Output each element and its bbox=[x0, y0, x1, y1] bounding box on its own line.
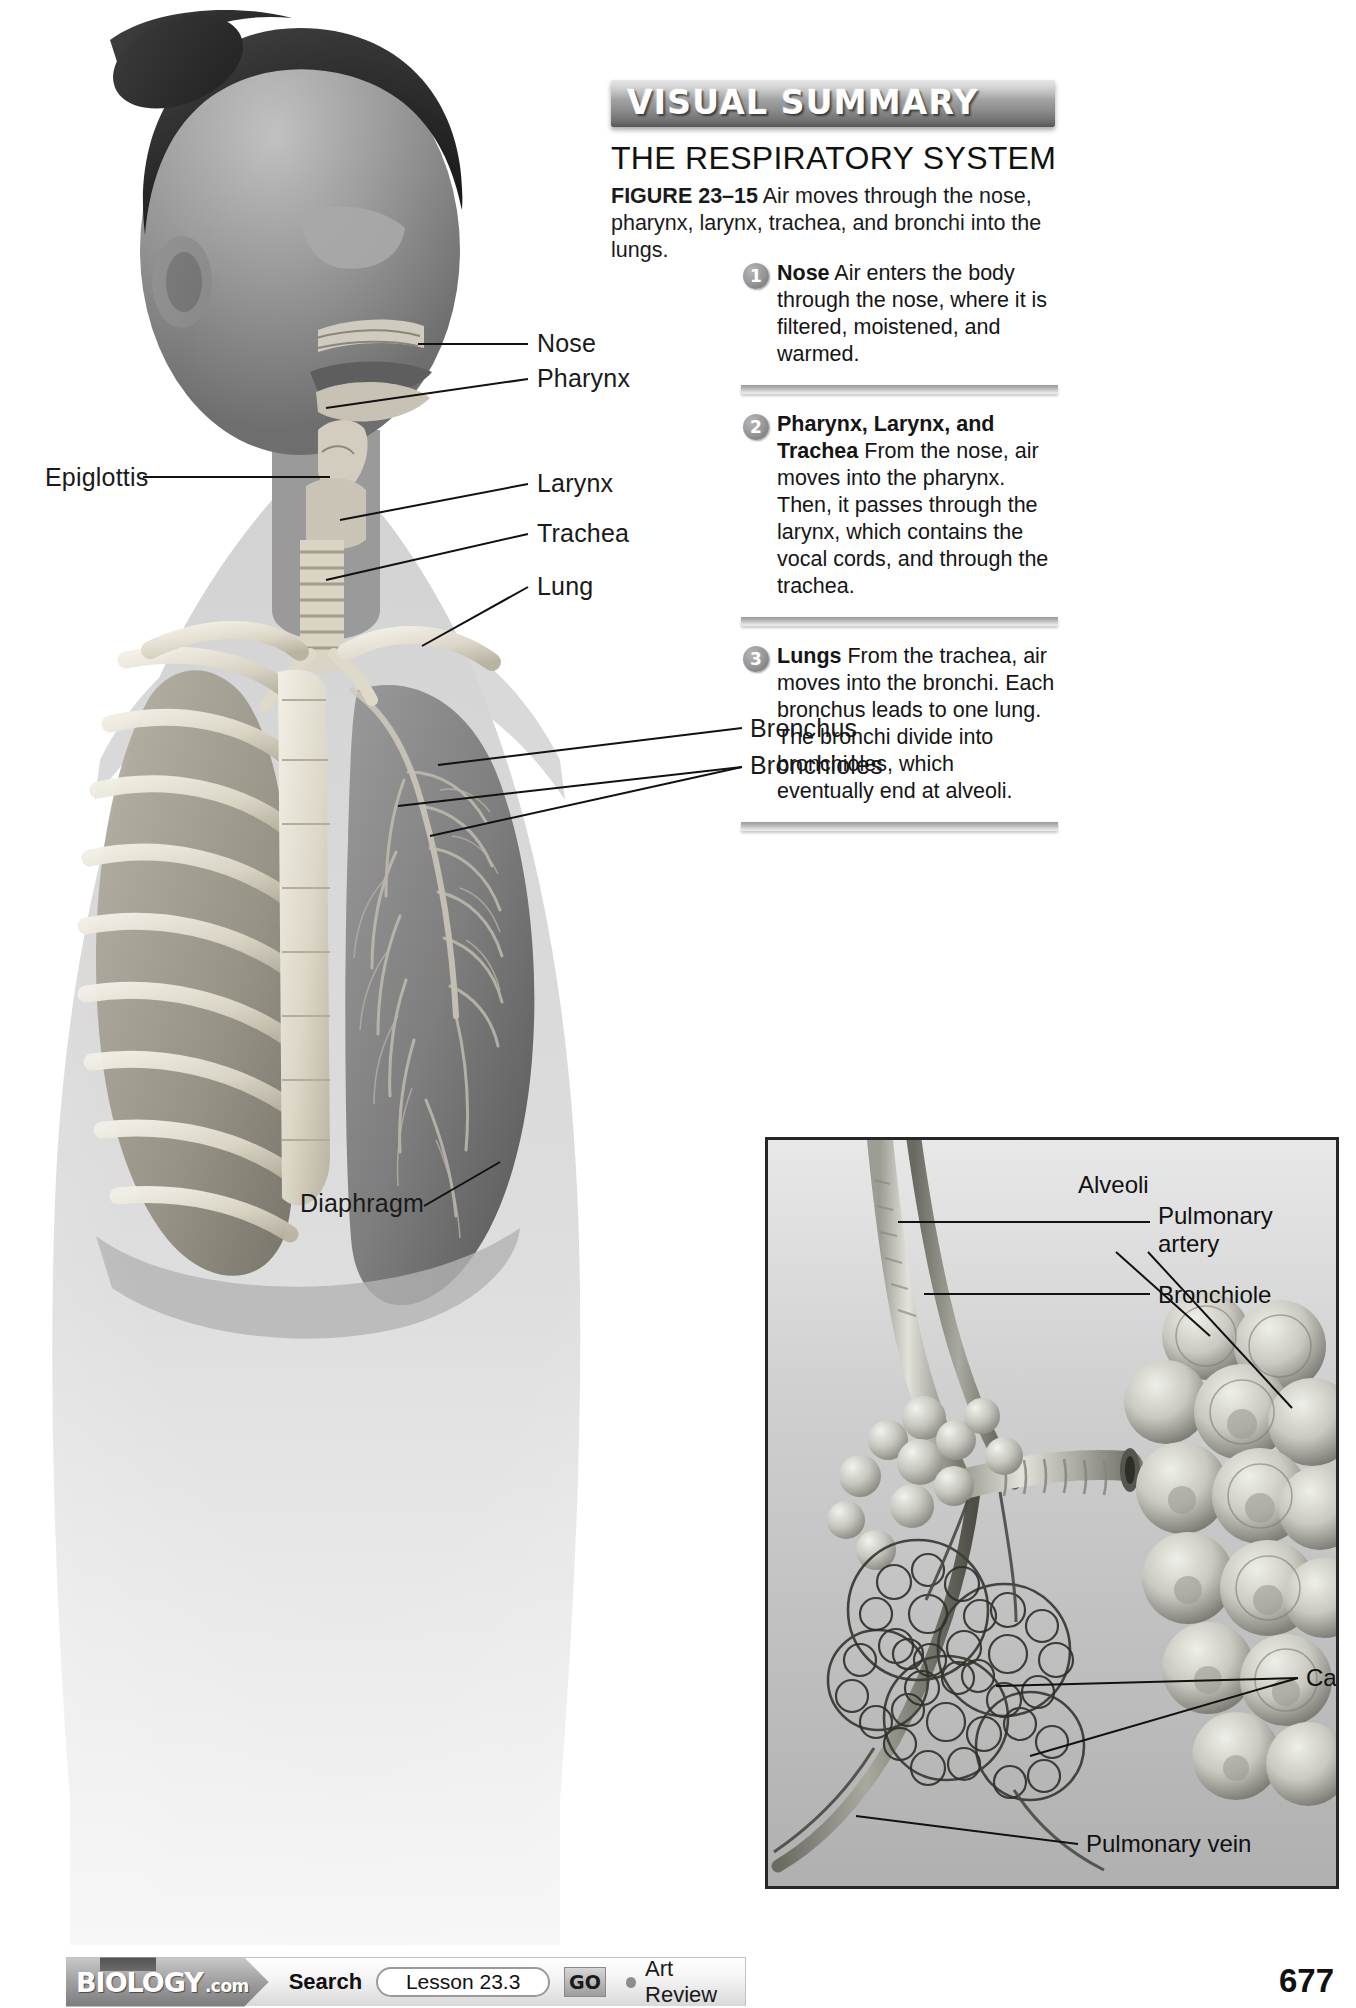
search-label: Search bbox=[289, 1969, 362, 1995]
step-body-3: Lungs From the trachea, air moves into t… bbox=[777, 643, 1056, 805]
alveoli-detail-inset: Pulmonary artery Bronchiole Alveoli Capi… bbox=[765, 1137, 1339, 1889]
step-body-1: Nose Air enters the body through the nos… bbox=[777, 260, 1056, 368]
biology-com-logo-suffix: .com bbox=[205, 1976, 249, 1996]
biology-com-logo[interactable]: BIOLOGY .com bbox=[66, 1958, 269, 2007]
step-number-badge-1: 1 bbox=[743, 263, 769, 289]
anatomy-label-epiglottis: Epiglottis bbox=[45, 463, 137, 492]
alveoli-artwork bbox=[768, 1140, 1336, 1886]
visual-summary-panel: VISUAL SUMMARY THE RESPIRATORY SYSTEM FI… bbox=[600, 80, 1356, 264]
anatomy-label-lung: Lung bbox=[537, 572, 593, 601]
step-number-badge-3: 3 bbox=[743, 646, 769, 672]
go-button[interactable]: GO bbox=[564, 1967, 605, 1997]
step-term-3: Lungs bbox=[777, 644, 842, 668]
step-number-badge-2: 2 bbox=[743, 414, 769, 440]
anatomy-label-nose: Nose bbox=[537, 329, 596, 358]
summary-step-1: 1 Nose Air enters the body through the n… bbox=[743, 260, 1056, 368]
summary-step-2: 2 Pharynx, Larynx, and Trachea From the … bbox=[743, 411, 1056, 600]
search-input[interactable]: Lesson 23.3 bbox=[376, 1967, 550, 1997]
step-divider-1 bbox=[741, 385, 1058, 394]
figure-number: FIGURE 23–15 bbox=[611, 184, 758, 208]
anatomy-label-pharynx: Pharynx bbox=[537, 364, 630, 393]
visual-summary-banner: VISUAL SUMMARY bbox=[611, 80, 1055, 127]
biology-com-logo-word: BIOLOGY bbox=[76, 1967, 203, 1998]
summary-step-list: 1 Nose Air enters the body through the n… bbox=[743, 260, 1056, 848]
inset-label-pulmonary-artery-line1: Pulmonary bbox=[1158, 1202, 1273, 1230]
page-number: 677 bbox=[1279, 1962, 1334, 2000]
inset-label-bronchiole: Bronchiole bbox=[1158, 1281, 1271, 1309]
anatomy-label-diaphragm: Diaphragm bbox=[300, 1189, 418, 1218]
figure-caption: FIGURE 23–15 Air moves through the nose,… bbox=[611, 183, 1063, 264]
bullet-icon bbox=[626, 1977, 636, 1988]
step-body-2: Pharynx, Larynx, and Trachea From the no… bbox=[777, 411, 1056, 600]
page-title: THE RESPIRATORY SYSTEM bbox=[611, 140, 1356, 177]
biology-com-toolbar: BIOLOGY .com Search Lesson 23.3 GO Art R… bbox=[66, 1957, 746, 2006]
inset-label-capillaries: Capillaries bbox=[1306, 1664, 1339, 1692]
summary-step-3: 3 Lungs From the trachea, air moves into… bbox=[743, 643, 1056, 805]
step-divider-3 bbox=[741, 822, 1058, 831]
step-divider-2 bbox=[741, 617, 1058, 626]
inset-label-pulmonary-vein: Pulmonary vein bbox=[1086, 1830, 1251, 1858]
anatomy-label-trachea: Trachea bbox=[537, 519, 629, 548]
step-term-1: Nose bbox=[777, 261, 830, 285]
inset-label-alveoli: Alveoli bbox=[1078, 1171, 1149, 1199]
anatomy-label-larynx: Larynx bbox=[537, 469, 613, 498]
art-review-link[interactable]: Art Review bbox=[645, 1956, 745, 2008]
inset-label-pulmonary-artery-line2: artery bbox=[1158, 1230, 1219, 1258]
visual-summary-banner-label: VISUAL SUMMARY bbox=[627, 83, 979, 122]
